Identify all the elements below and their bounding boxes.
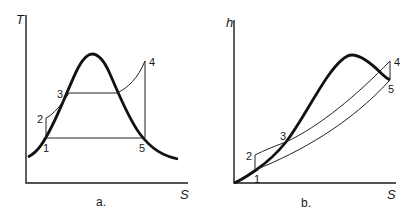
diagram-a-point-2-label: 2 (37, 113, 43, 125)
diagram-a-curve-to-4 (117, 61, 145, 93)
diagram-b-saturation-curve (234, 55, 390, 183)
diagram-b-point-3-label: 3 (280, 130, 286, 142)
diagram-a-point-3-label: 3 (57, 88, 63, 100)
diagram-b-point-2-label: 2 (246, 150, 252, 162)
diagram-a-point-1-label: 1 (43, 142, 49, 154)
diagram-a-saturation-dome (28, 54, 178, 159)
diagram-a-point-5-label: 5 (139, 142, 145, 154)
diagram-a-axes (26, 15, 188, 183)
diagram-b-point-4-label: 4 (394, 56, 400, 68)
diagram-a: T S a. 1 2 3 4 5 (16, 12, 189, 209)
diagram-b-line-5-1 (255, 80, 390, 170)
diagram-b-axes (234, 20, 396, 183)
diagram-a-caption: a. (96, 195, 106, 209)
diagram-b-caption: b. (301, 196, 311, 210)
diagram-b-x-axis-label: S (387, 187, 396, 202)
diagram-b-line-2-3-4 (255, 61, 390, 155)
diagram-b-y-axis-label: h (226, 15, 233, 30)
diagrams-canvas: T S a. 1 2 3 4 5 h S b. 1 2 3 (0, 0, 413, 218)
diagram-a-point-4-label: 4 (149, 56, 155, 68)
diagram-b-point-5-label: 5 (388, 83, 394, 95)
diagram-a-y-axis-label: T (16, 12, 25, 27)
diagram-b-point-1-label: 1 (254, 173, 260, 185)
diagram-b: h S b. 1 2 3 4 5 (226, 15, 400, 210)
diagram-a-x-axis-label: S (180, 187, 189, 202)
